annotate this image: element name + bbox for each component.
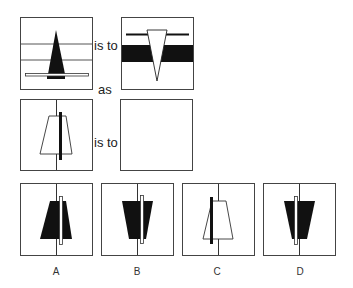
is-to-label-2: is to — [94, 135, 118, 150]
is-to-label-1: is to — [94, 38, 118, 53]
panel-1 — [21, 18, 93, 90]
option-b-label[interactable]: B — [127, 266, 147, 277]
panel-3 — [21, 100, 93, 171]
panel-2 — [122, 18, 194, 90]
option-c-figure[interactable] — [183, 184, 255, 256]
as-label: as — [98, 82, 112, 97]
option-c-label[interactable]: C — [207, 266, 227, 277]
option-a-label[interactable]: A — [46, 266, 66, 277]
option-d-figure[interactable] — [264, 184, 336, 256]
option-d-label[interactable]: D — [290, 266, 310, 277]
panel-4-empty — [121, 100, 193, 171]
option-a-figure[interactable] — [21, 184, 93, 256]
option-b-figure[interactable] — [102, 184, 174, 256]
